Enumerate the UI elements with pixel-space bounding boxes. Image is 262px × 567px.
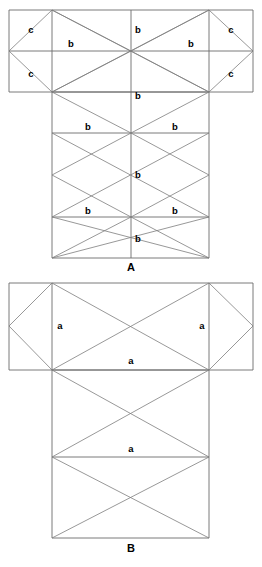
figure-a-caption: A <box>127 261 135 273</box>
figure-a-row3-diagonal-left <box>52 217 131 258</box>
figure-a-label-1: b <box>68 38 74 49</box>
figure-b-label-3: a <box>128 443 134 454</box>
figure-a-label-6: c <box>228 68 233 79</box>
figure-a-label-10: b <box>135 169 141 180</box>
figure-b-label-1: a <box>199 320 205 331</box>
figure-a-label-8: b <box>85 121 91 132</box>
figure-b-left-diamond-outer <box>9 283 52 370</box>
figure-a-label-0: c <box>28 24 33 35</box>
figure-a-group: c b b b c c c b b b b b b b A <box>9 10 253 273</box>
figure-b-body-rectangle <box>52 370 209 538</box>
figure-b-right-diamond-outer <box>209 283 253 370</box>
figure-a-label-2: b <box>135 24 141 35</box>
figure-a-label-4: c <box>228 24 233 35</box>
figure-b-caption: B <box>127 542 135 554</box>
diagram-canvas: c b b b c c c b b b b b b b A <box>0 0 262 567</box>
figure-b-label-0: a <box>57 320 63 331</box>
figure-a-label-9: b <box>172 121 178 132</box>
figure-a-label-3: b <box>188 38 194 49</box>
figure-a-label-5: c <box>28 68 33 79</box>
figure-b-labels: a a a a <box>57 320 205 454</box>
figure-a-label-13: b <box>135 233 141 244</box>
figure-b-label-2: a <box>128 355 134 366</box>
figure-b-group: a a a a B <box>9 283 253 554</box>
figure-a-left-shoulder-diagonal <box>52 92 131 133</box>
net-diagram-svg: c b b b c c c b b b b b b b A <box>0 0 262 567</box>
figure-a-row3-diagonal-right <box>131 217 209 258</box>
figure-a-label-12: b <box>172 205 178 216</box>
figure-a-right-shoulder-diagonal <box>131 92 209 133</box>
figure-a-label-7: b <box>135 90 141 101</box>
figure-a-label-11: b <box>85 205 91 216</box>
